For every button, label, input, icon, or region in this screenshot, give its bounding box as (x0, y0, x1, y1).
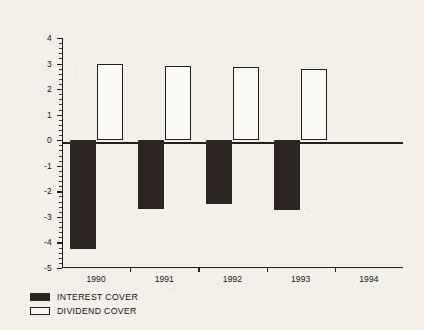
y-tick-label: -2 (44, 186, 52, 196)
legend-swatch-filled-icon (30, 293, 50, 301)
legend-label-interest-cover: INTEREST COVER (57, 292, 138, 302)
y-tick-minor (59, 104, 62, 105)
legend-item-dividend-cover: DIVIDEND COVER (30, 304, 138, 317)
bar (165, 66, 191, 140)
bar (97, 64, 123, 141)
y-tick-major (57, 115, 62, 116)
y-tick-minor (59, 135, 62, 136)
y-tick-minor (59, 253, 62, 254)
y-tick-minor (59, 53, 62, 54)
zero-baseline (62, 142, 403, 144)
y-tick-minor (59, 150, 62, 151)
x-tick-label: 1993 (291, 274, 310, 284)
x-tick (267, 267, 268, 272)
y-tick-minor (59, 202, 62, 203)
y-tick-label: -5 (44, 263, 52, 273)
y-tick-major (57, 64, 62, 65)
y-tick-minor (59, 263, 62, 264)
y-tick-minor (59, 248, 62, 249)
y-tick-minor (59, 69, 62, 70)
y-tick-minor (59, 94, 62, 95)
y-tick-minor (59, 258, 62, 259)
x-tick-label: 1991 (155, 274, 174, 284)
y-tick-label: 4 (47, 33, 52, 43)
y-tick-minor (59, 181, 62, 182)
y-tick-minor (59, 43, 62, 44)
y-tick-minor (59, 207, 62, 208)
y-tick-minor (59, 196, 62, 197)
y-tick-minor (59, 176, 62, 177)
y-tick-label: -1 (44, 161, 52, 171)
y-tick-minor (59, 48, 62, 49)
y-tick-minor (59, 186, 62, 187)
y-tick-minor (59, 58, 62, 59)
y-tick-label: 2 (47, 84, 52, 94)
x-tick (130, 267, 131, 272)
y-tick-minor (59, 125, 62, 126)
y-tick-major (57, 217, 62, 218)
y-tick-minor (59, 145, 62, 146)
y-tick-minor (59, 237, 62, 238)
y-tick-minor (59, 79, 62, 80)
y-tick-label: -4 (44, 237, 52, 247)
y-tick-minor (59, 74, 62, 75)
y-tick-major (57, 268, 62, 269)
plot-area: 43210-1-2-3-4-5 19901991199219931994 (62, 38, 403, 268)
y-tick-minor (59, 227, 62, 228)
bar (274, 140, 300, 210)
y-tick-minor (59, 156, 62, 157)
y-tick-minor (59, 110, 62, 111)
bar (301, 69, 327, 140)
y-tick-label: -3 (44, 212, 52, 222)
y-tick-minor (59, 222, 62, 223)
x-tick (335, 267, 336, 272)
x-tick-label: 1990 (86, 274, 105, 284)
y-tick-label: 3 (47, 59, 52, 69)
bar (233, 67, 259, 141)
x-tick-label: 1994 (359, 274, 378, 284)
y-tick-label: 0 (47, 135, 52, 145)
y-tick-major (57, 242, 62, 243)
bar (206, 140, 232, 204)
y-tick-label: 1 (47, 110, 52, 120)
bar (70, 140, 96, 249)
legend-swatch-outlined-icon (30, 307, 50, 315)
y-tick-minor (59, 84, 62, 85)
y-tick-major (57, 140, 62, 141)
x-tick-label: 1992 (223, 274, 242, 284)
y-tick-minor (59, 171, 62, 172)
y-tick-minor (59, 232, 62, 233)
y-tick-minor (59, 99, 62, 100)
y-tick-minor (59, 212, 62, 213)
x-tick (198, 267, 199, 272)
chart-figure: 43210-1-2-3-4-5 19901991199219931994 INT… (0, 0, 424, 330)
y-tick-minor (59, 130, 62, 131)
y-tick-major (57, 38, 62, 39)
y-tick-major (57, 191, 62, 192)
y-tick-major (57, 166, 62, 167)
y-tick-major (57, 89, 62, 90)
legend-label-dividend-cover: DIVIDEND COVER (57, 306, 137, 316)
y-tick-minor (59, 120, 62, 121)
y-axis-line (62, 38, 63, 268)
y-tick-minor (59, 161, 62, 162)
legend-item-interest-cover: INTEREST COVER (30, 290, 138, 303)
chart-legend: INTEREST COVER DIVIDEND COVER (30, 290, 138, 318)
bar (138, 140, 164, 209)
x-axis-line (62, 267, 403, 268)
